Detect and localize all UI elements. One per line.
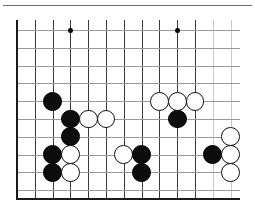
white-stone[interactable] [61,145,80,164]
white-stone[interactable] [97,110,116,129]
white-stone[interactable] [186,92,205,111]
black-stone[interactable] [203,145,222,164]
black-stone[interactable] [43,145,62,164]
white-stone[interactable] [150,92,169,111]
black-stone[interactable] [43,163,62,182]
stones-layer [0,0,255,211]
go-board-diagram [0,0,255,211]
white-stone[interactable] [221,145,240,164]
black-stone[interactable] [61,110,80,129]
black-stone[interactable] [132,163,151,182]
white-stone[interactable] [221,163,240,182]
black-stone[interactable] [43,92,62,111]
black-stone[interactable] [61,127,80,146]
white-stone[interactable] [168,92,187,111]
white-stone[interactable] [61,163,80,182]
black-stone[interactable] [168,110,187,129]
white-stone[interactable] [114,145,133,164]
black-stone[interactable] [132,145,151,164]
white-stone[interactable] [221,127,240,146]
white-stone[interactable] [79,110,98,129]
